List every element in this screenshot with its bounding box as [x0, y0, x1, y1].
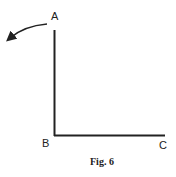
rotation-arrow-icon [10, 24, 47, 38]
label-a: A [51, 11, 58, 22]
label-b: B [42, 138, 49, 149]
figure-caption: Fig. 6 [90, 157, 114, 167]
diagram-canvas [0, 0, 176, 177]
label-c: C [159, 140, 167, 151]
